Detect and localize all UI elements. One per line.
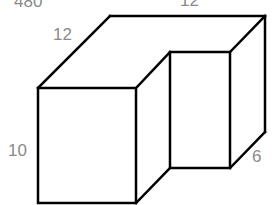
inner-face	[170, 52, 230, 168]
top-right-edge	[230, 16, 265, 52]
inner-top-slant	[136, 52, 170, 88]
width-label: 12	[180, 0, 199, 9]
inner-bottom-slant	[136, 168, 170, 203]
height-label: 10	[8, 142, 27, 159]
top-left-edge	[38, 16, 110, 88]
notch-depth-label: 6	[252, 148, 261, 165]
depth-label: 12	[53, 26, 72, 43]
answer-label: 480	[14, 0, 42, 10]
front-face	[38, 88, 136, 203]
l-shaped-prism-drawing	[0, 0, 275, 205]
